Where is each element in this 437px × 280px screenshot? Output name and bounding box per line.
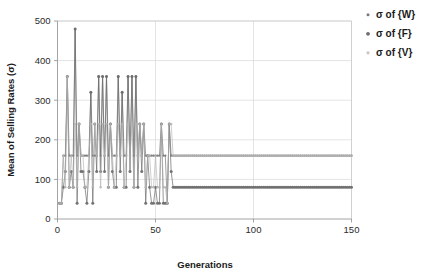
data-point — [136, 186, 139, 189]
data-point — [95, 154, 98, 157]
data-point — [103, 154, 106, 157]
y-axis-title: Mean of Selling Rates (σ) — [5, 63, 16, 177]
data-point — [105, 75, 108, 78]
data-point — [68, 186, 71, 189]
data-point — [133, 186, 136, 189]
data-point — [109, 123, 112, 126]
data-point — [88, 154, 91, 157]
x-tick-label: 50 — [150, 224, 161, 235]
data-point — [121, 91, 124, 94]
data-point — [117, 75, 120, 78]
data-point — [152, 202, 155, 205]
data-point — [74, 27, 77, 30]
data-point — [90, 123, 93, 126]
data-point — [141, 154, 144, 157]
data-point — [89, 91, 92, 94]
x-tick-label: 0 — [55, 224, 60, 235]
data-point — [164, 186, 167, 189]
chart-container: 0100200300400500 050100150 Mean of Selli… — [0, 0, 437, 280]
y-tick-label: 500 — [35, 15, 51, 26]
y-tick-label: 300 — [35, 95, 51, 106]
x-tick-label: 100 — [246, 224, 262, 235]
data-point — [140, 170, 143, 173]
data-point — [152, 186, 155, 189]
legend-marker-icon — [367, 13, 370, 16]
data-point — [119, 170, 122, 173]
data-point — [111, 154, 114, 157]
data-point — [160, 123, 163, 126]
data-point — [127, 75, 130, 78]
data-point — [127, 123, 130, 126]
data-point — [64, 186, 67, 189]
y-tick-label: 200 — [35, 134, 51, 145]
data-point — [93, 123, 96, 126]
data-point — [76, 202, 79, 205]
data-point — [66, 75, 69, 78]
data-point — [129, 170, 132, 173]
data-point — [62, 154, 65, 157]
legend-label: σ of {F} — [376, 28, 412, 39]
data-point — [70, 154, 73, 157]
y-tick-label: 100 — [35, 174, 51, 185]
data-point — [170, 170, 173, 173]
data-point — [72, 186, 75, 189]
data-point — [139, 123, 142, 126]
data-point — [92, 186, 95, 189]
data-point — [105, 123, 108, 126]
data-point — [129, 154, 132, 157]
data-point — [103, 170, 106, 173]
data-point — [350, 154, 353, 157]
data-point — [158, 186, 161, 189]
data-point — [113, 186, 116, 189]
data-point — [144, 202, 147, 205]
data-point — [117, 123, 120, 126]
data-point — [99, 186, 102, 189]
data-point — [164, 154, 166, 156]
data-point — [137, 154, 140, 157]
data-point — [99, 170, 102, 173]
data-point — [85, 202, 88, 205]
data-point — [142, 123, 145, 126]
data-point — [86, 186, 89, 189]
data-point — [119, 154, 122, 157]
data-point — [135, 123, 138, 126]
legend-label: σ of {V} — [376, 47, 412, 58]
data-point — [74, 123, 77, 126]
data-point — [82, 154, 85, 157]
legend-label: σ of {W} — [376, 9, 415, 20]
data-point — [130, 75, 133, 78]
y-tick-label: 0 — [45, 213, 50, 224]
data-point — [125, 154, 128, 157]
y-tick-label: 400 — [35, 55, 51, 66]
data-point — [101, 123, 104, 126]
data-point — [97, 75, 100, 78]
data-point — [95, 170, 98, 173]
data-point — [350, 186, 353, 189]
data-point — [144, 186, 147, 189]
data-point — [115, 154, 118, 157]
legend-marker-icon — [366, 32, 370, 36]
data-point — [121, 123, 124, 126]
data-point — [60, 202, 63, 205]
data-point — [131, 123, 134, 126]
legend-marker-icon — [366, 51, 369, 54]
data-point — [170, 123, 173, 126]
data-point — [97, 123, 100, 126]
data-point — [134, 75, 137, 78]
data-point — [158, 202, 161, 205]
data-point — [78, 123, 81, 126]
data-point — [101, 75, 104, 78]
data-point — [154, 154, 157, 157]
x-axis-title: Generations — [177, 259, 232, 270]
data-point — [76, 186, 79, 189]
selling-rates-line-chart: 0100200300400500 050100150 Mean of Selli… — [0, 0, 437, 280]
x-tick-label: 150 — [344, 224, 360, 235]
data-point — [166, 202, 169, 205]
data-point — [91, 202, 94, 205]
data-point — [123, 186, 126, 189]
data-point — [148, 154, 151, 157]
data-point — [107, 186, 110, 189]
